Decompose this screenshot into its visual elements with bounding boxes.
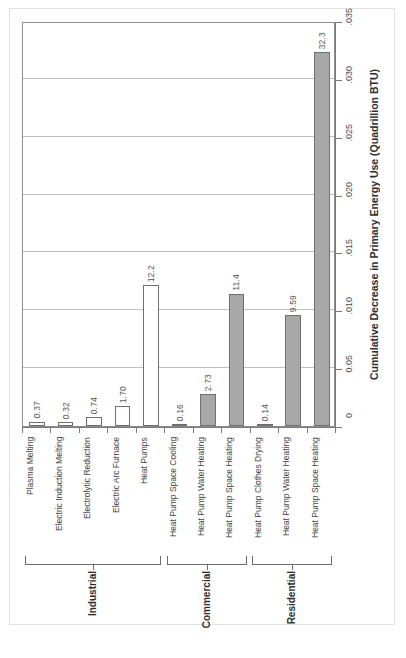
category-label: Heat Pump Water Heating bbox=[197, 437, 206, 549]
category-label: Heat Pump Space Heating bbox=[311, 437, 320, 549]
bar-value-label: 11.4 bbox=[231, 274, 241, 291]
bar-value-label: 12.2 bbox=[146, 265, 156, 282]
value-axis-tick bbox=[335, 369, 342, 370]
bar-value-label: 9.59 bbox=[288, 295, 298, 312]
category-axis-tick bbox=[221, 428, 222, 433]
category-axis-tick bbox=[107, 428, 108, 433]
category-axis-tick bbox=[335, 428, 336, 433]
group-bracket bbox=[252, 556, 332, 565]
bar[interactable] bbox=[29, 422, 45, 426]
group-label: Industrial bbox=[87, 571, 98, 616]
category-axis-tick bbox=[50, 428, 51, 433]
bar[interactable] bbox=[115, 406, 131, 426]
bar[interactable] bbox=[229, 294, 245, 426]
category-axis-tick bbox=[136, 428, 137, 433]
group-bracket bbox=[167, 556, 247, 565]
bar[interactable] bbox=[314, 52, 330, 426]
category-axis-tick bbox=[307, 428, 308, 433]
bar[interactable] bbox=[200, 394, 216, 426]
bar-value-label: 0.74 bbox=[89, 397, 99, 414]
bar-value-label: 0.32 bbox=[61, 402, 71, 419]
bar-value-label: 0.37 bbox=[32, 401, 42, 418]
category-axis-tick bbox=[278, 428, 279, 433]
category-axis-line bbox=[22, 427, 335, 428]
value-axis-tick-label: 0.05 bbox=[344, 355, 354, 373]
category-axis-tick bbox=[79, 428, 80, 433]
value-axis-tick-label: .030 bbox=[344, 66, 354, 84]
group-label: Residential bbox=[286, 571, 297, 624]
bar[interactable] bbox=[58, 422, 74, 426]
value-axis-tick-label: .025 bbox=[344, 124, 354, 142]
category-label: Heat Pump Space Heating bbox=[225, 437, 234, 549]
category-axis-tick bbox=[193, 428, 194, 433]
group-bracket-stem bbox=[292, 565, 293, 570]
value-axis-tick bbox=[335, 311, 342, 312]
value-axis-tick bbox=[335, 427, 342, 428]
value-axis-title: Cumulative Decrease in Primary Energy Us… bbox=[368, 22, 380, 427]
bar-value-label: 0.16 bbox=[175, 404, 185, 421]
value-axis-tick bbox=[335, 196, 342, 197]
bar-value-label: 0.14 bbox=[260, 404, 270, 421]
category-axis-tick bbox=[250, 428, 251, 433]
figure: 0.370.320.741.7012.20.162.7311.40.149.59… bbox=[0, 0, 406, 658]
value-axis-tick bbox=[335, 80, 342, 81]
bar[interactable] bbox=[172, 424, 188, 426]
value-axis-tick-label: 0 bbox=[344, 413, 354, 418]
group-bracket bbox=[25, 556, 162, 565]
value-axis-tick-label: .015 bbox=[344, 239, 354, 257]
value-axis-tick bbox=[335, 138, 342, 139]
bar[interactable] bbox=[86, 417, 102, 426]
category-axis-tick bbox=[22, 428, 23, 433]
plot-area: 0.370.320.741.7012.20.162.7311.40.149.59… bbox=[22, 22, 335, 427]
category-label: Heat Pump Space Cooling bbox=[169, 437, 178, 549]
bar-series: 0.370.320.741.7012.20.162.7311.40.149.59… bbox=[23, 23, 334, 426]
category-label: Heat Pump Clothes Drying bbox=[254, 437, 263, 549]
value-axis-tick-label: .010 bbox=[344, 297, 354, 315]
category-label: Electric Arc Furnace bbox=[112, 437, 121, 549]
bar-value-label: 32.3 bbox=[317, 32, 327, 49]
value-axis-line bbox=[335, 22, 336, 427]
bar[interactable] bbox=[143, 285, 159, 426]
category-label: Heat Pump Water Heating bbox=[282, 437, 291, 549]
value-axis-tick-label: .035 bbox=[344, 8, 354, 26]
bar-value-label: 2.73 bbox=[203, 374, 213, 391]
category-label: Plasma Melting bbox=[26, 437, 35, 549]
category-label: Electrolytic Reduction bbox=[83, 437, 92, 549]
group-bracket-stem bbox=[93, 565, 94, 570]
category-axis-tick bbox=[164, 428, 165, 433]
category-label: Heat Pumps bbox=[140, 437, 149, 549]
category-label: Electric Induction Melting bbox=[55, 437, 64, 549]
value-axis-tick bbox=[335, 22, 342, 23]
bar[interactable] bbox=[285, 315, 301, 426]
value-axis-tick bbox=[335, 253, 342, 254]
group-label: Commercial bbox=[201, 571, 212, 628]
bar-value-label: 1.70 bbox=[118, 386, 128, 403]
value-axis-tick-label: .020 bbox=[344, 182, 354, 200]
group-bracket-stem bbox=[207, 565, 208, 570]
bar[interactable] bbox=[257, 424, 273, 426]
